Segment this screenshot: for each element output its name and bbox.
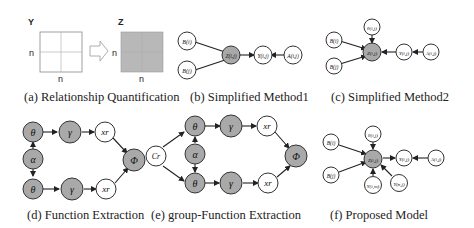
svg-text:B(j): B(j): [330, 64, 339, 71]
svg-text:α: α: [30, 154, 36, 165]
svg-text:xr: xr: [262, 121, 271, 131]
panel-d: θ γ xr α Φ θ γ xr (d) Function Extractio…: [23, 121, 145, 222]
svg-text:xr: xr: [100, 127, 109, 137]
svg-text:Φ: Φ: [292, 151, 300, 162]
panel-b: B(i) B(j) Z(i,j) Y(i,j) A(i,j) (b) Simpl…: [178, 32, 309, 104]
panel-c: B(i) B(j) θ(i,j) Z(i,j) Y(i,j) A(i,j) (c…: [326, 19, 449, 104]
svg-text:B(i): B(i): [182, 39, 191, 46]
caption-b: (b) Simplified Method1: [190, 90, 309, 104]
svg-text:θ: θ: [31, 184, 36, 195]
svg-text:Φ: Φ: [130, 155, 138, 166]
matrix-y-label: Y: [28, 17, 34, 27]
svg-text:θ: θ: [31, 127, 36, 138]
panel-a: Y n n Z n n (a) Relationship Quantificat…: [24, 17, 180, 104]
matrix-z-row-label: n: [112, 48, 117, 58]
svg-text:B(j): B(j): [327, 173, 336, 180]
svg-text:α: α: [192, 149, 198, 160]
svg-text:B(j): B(j): [182, 68, 191, 75]
caption-e: (e) group-Function Extraction: [151, 208, 302, 222]
transform-arrow-icon: [90, 41, 108, 61]
svg-text:xr: xr: [263, 178, 272, 188]
caption-d: (d) Function Extraction: [27, 208, 145, 222]
svg-text:Y(i,j): Y(i,j): [257, 53, 268, 60]
svg-text:θ: θ: [193, 121, 198, 132]
caption-a: (a) Relationship Quantification: [24, 90, 180, 104]
caption-c: (c) Simplified Method2: [331, 90, 449, 104]
matrix-z-label: Z: [118, 17, 124, 27]
figure-canvas: Y n n Z n n (a) Relationship Quantificat…: [0, 0, 474, 228]
svg-text:A(i,j): A(i,j): [286, 53, 299, 60]
svg-text:Cr: Cr: [152, 152, 161, 161]
svg-text:xr: xr: [101, 184, 110, 194]
panel-f: B(i) B(j) θ(i,j) Z(i,j) Y(i,j) A(i,j) Y(…: [323, 126, 444, 222]
matrix-y-col-label: n: [58, 74, 63, 84]
caption-f: (f) Proposed Model: [330, 208, 428, 222]
panel-e: Cr θ γ xr α Φ θ γ xr (e) group-Function …: [146, 115, 307, 222]
svg-text:Z(i,j): Z(i,j): [225, 53, 236, 60]
svg-text:θ: θ: [193, 178, 198, 189]
svg-text:B(i): B(i): [327, 140, 336, 147]
svg-text:B(i): B(i): [330, 38, 339, 45]
matrix-y-row-label: n: [29, 48, 34, 58]
matrix-z-col-label: n: [139, 74, 144, 84]
